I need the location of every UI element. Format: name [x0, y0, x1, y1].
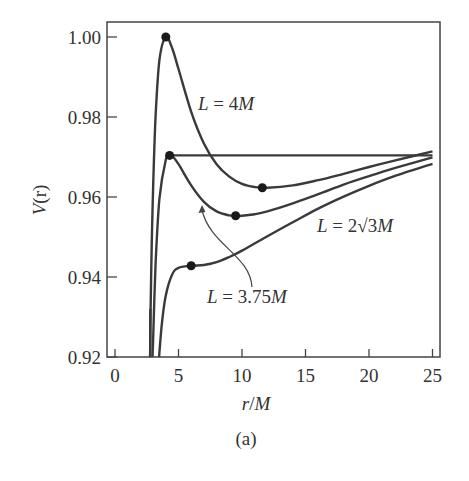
x-tick-label: 20 [360, 365, 379, 386]
curves [150, 37, 432, 357]
marker-dot [187, 261, 196, 270]
y-tick-label: 1.00 [68, 27, 101, 48]
label-l-2root3m: L = 2√3M [316, 215, 394, 236]
x-tick-label: 5 [174, 365, 184, 386]
marker-dot [231, 211, 240, 220]
y-tick-label: 0.92 [68, 347, 101, 368]
marker-dot [161, 33, 170, 42]
y-axis-ticks: 0.920.940.960.981.00 [68, 27, 117, 368]
curve-l-2-3m [159, 164, 432, 357]
y-tick-label: 0.98 [68, 107, 101, 128]
y-axis-label: V(r) [29, 185, 51, 216]
y-tick-label: 0.96 [68, 187, 101, 208]
x-tick-label: 10 [233, 365, 252, 386]
arrow-head-icon [199, 205, 206, 213]
label-l-3-75m: L = 3.75M [206, 286, 288, 307]
x-tick-label: 0 [110, 365, 120, 386]
figure-caption: (a) [235, 428, 256, 450]
y-tick-label: 0.94 [68, 267, 102, 288]
x-axis-label: r/M [242, 393, 272, 414]
marker-dot [165, 151, 174, 160]
label-l-4m: L = 4M [197, 93, 255, 114]
x-tick-label: 25 [423, 365, 442, 386]
potential-chart: 0510152025 0.920.940.960.981.00 L = 4M L… [0, 0, 469, 481]
curve-l-4m [150, 37, 432, 357]
marker-dot [258, 183, 267, 192]
x-tick-label: 15 [296, 365, 315, 386]
